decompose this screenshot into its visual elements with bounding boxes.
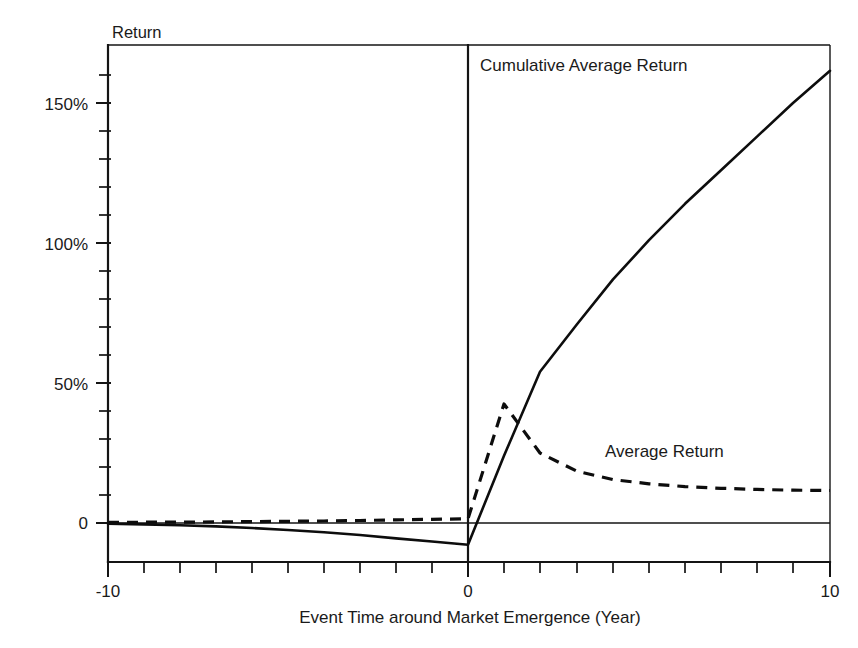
x-tick-label-0: 0 — [463, 582, 472, 601]
y-tick-label-100: 100% — [45, 235, 88, 254]
y-tick-label-50: 50% — [54, 375, 88, 394]
x-tick-label--10: -10 — [96, 582, 121, 601]
y-tick-label-150: 150% — [45, 95, 88, 114]
chart-background — [0, 0, 858, 648]
y-tick-label-0: 0 — [79, 514, 88, 533]
x-tick-label-10: 10 — [821, 582, 840, 601]
chart-figure: 0 50% 100% 150% -10 0 10 Return Event Ti… — [0, 0, 858, 648]
x-axis-title: Event Time around Market Emergence (Year… — [299, 608, 640, 627]
annotation-average-return: Average Return — [605, 442, 724, 461]
return-event-study-chart: 0 50% 100% 150% -10 0 10 Return Event Ti… — [0, 0, 858, 648]
annotation-cumulative-average-return: Cumulative Average Return — [480, 56, 688, 75]
y-axis-title: Return — [112, 23, 162, 41]
